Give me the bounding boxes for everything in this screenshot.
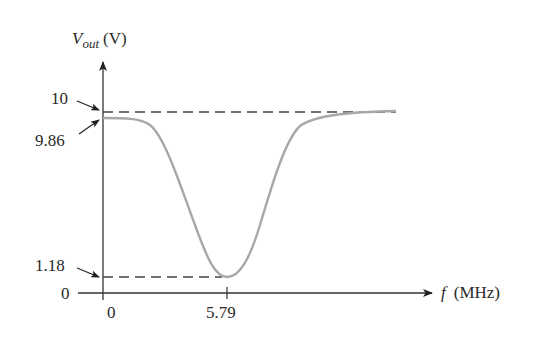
y-axis-unit: (V) <box>103 29 127 48</box>
x-axis-title: f(MHz) <box>441 283 500 302</box>
arrow-10 <box>77 101 99 110</box>
y-label-0: 0 <box>61 284 70 303</box>
y-axis-sub: out <box>82 36 99 51</box>
y-label-10: 10 <box>51 89 68 108</box>
notch-response-chart: Vout(V) f(MHz) 10 9.86 1.18 0 0 5.79 <box>0 0 539 339</box>
x-axis-var: f <box>441 283 448 302</box>
x-label-5.79: 5.79 <box>206 303 236 322</box>
y-axis-title: Vout(V) <box>72 29 127 51</box>
y-label-9.86: 9.86 <box>35 131 65 150</box>
y-label-1.18: 1.18 <box>35 256 65 275</box>
arrow-1.18 <box>77 268 99 277</box>
x-label-0: 0 <box>107 303 116 322</box>
x-axis-unit: (MHz) <box>454 283 500 302</box>
vout-curve <box>103 111 396 277</box>
arrow-9.86 <box>79 120 99 134</box>
